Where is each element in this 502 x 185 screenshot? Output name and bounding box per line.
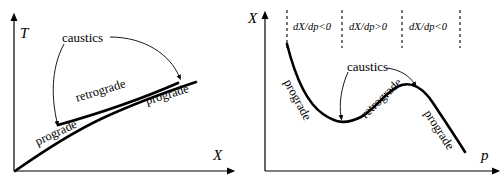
panel-x-of-p: X p dX/dp<0 dX/dp>0 dX/dp<0 caustics pro… [251,0,502,185]
caustics-leader-min [340,72,348,116]
x-axis-label: X [213,148,222,163]
region-label-1: dX/dp<0 [293,22,331,33]
region-label-2: dX/dp>0 [349,22,387,33]
x-axis-label: p [481,148,489,163]
caustics-leader-right [110,37,179,76]
caustics-leader-left [53,44,64,122]
figure-container: T X caustics prograde retrograde prograd… [0,0,502,185]
region-label-3: dX/dp<0 [409,22,447,33]
y-axis-label: T [20,26,28,41]
caustics-label: caustics [62,31,103,44]
y-axis-label: X [248,11,257,26]
panel-travel-time: T X caustics prograde retrograde prograd… [0,0,251,185]
caustics-label: caustics [347,60,388,73]
